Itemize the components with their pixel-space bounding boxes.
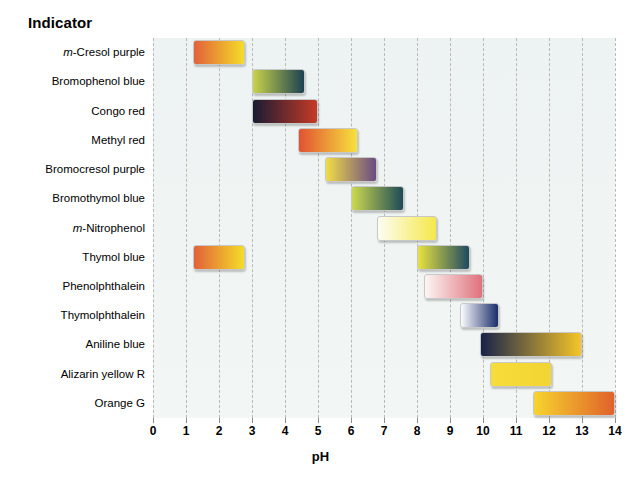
- indicator-label: Methyl red: [0, 134, 145, 147]
- indicator-label: Orange G: [0, 397, 145, 410]
- range-bar: [490, 362, 553, 387]
- range-bar: [424, 274, 483, 299]
- tick-label-3: 3: [239, 424, 265, 438]
- range-bar: [325, 157, 378, 182]
- range-bar: [377, 216, 436, 241]
- tick-mark-9: [450, 418, 451, 423]
- range-bar: [298, 128, 357, 153]
- tick-mark-10: [483, 418, 484, 423]
- range-bar: [252, 99, 318, 124]
- tick-label-10: 10: [470, 424, 496, 438]
- gridline-ph-6: [351, 38, 352, 418]
- gridline-ph-12: [549, 38, 550, 418]
- indicator-label: Phenolphthalein: [0, 280, 145, 293]
- indicator-label: Bromophenol blue: [0, 75, 145, 88]
- plot-area: [153, 38, 615, 418]
- tick-mark-6: [351, 418, 352, 423]
- range-bar: [193, 40, 246, 65]
- indicator-label: Congo red: [0, 105, 145, 118]
- tick-mark-11: [516, 418, 517, 423]
- range-bar: [351, 186, 404, 211]
- tick-label-11: 11: [503, 424, 529, 438]
- gridline-ph-3: [252, 38, 253, 418]
- range-bar: [533, 391, 616, 416]
- indicator-label: Alizarin yellow R: [0, 368, 145, 381]
- tick-label-2: 2: [206, 424, 232, 438]
- indicator-label: Bromothymol blue: [0, 192, 145, 205]
- tick-label-7: 7: [371, 424, 397, 438]
- range-bar: [460, 303, 500, 328]
- tick-mark-1: [186, 418, 187, 423]
- tick-label-5: 5: [305, 424, 331, 438]
- tick-mark-8: [417, 418, 418, 423]
- tick-label-0: 0: [140, 424, 166, 438]
- indicator-column-header: Indicator: [28, 14, 92, 31]
- gridline-ph-4: [285, 38, 286, 418]
- tick-label-1: 1: [173, 424, 199, 438]
- tick-mark-5: [318, 418, 319, 423]
- tick-label-12: 12: [536, 424, 562, 438]
- gridline-ph-10: [483, 38, 484, 418]
- indicator-label: m-Cresol purple: [0, 46, 145, 59]
- tick-mark-13: [582, 418, 583, 423]
- tick-mark-14: [615, 418, 616, 423]
- indicator-label: Aniline blue: [0, 338, 145, 351]
- indicator-label: Thymolphthalein: [0, 309, 145, 322]
- tick-label-8: 8: [404, 424, 430, 438]
- tick-mark-0: [153, 418, 154, 423]
- tick-label-9: 9: [437, 424, 463, 438]
- gridline-ph-1: [186, 38, 187, 418]
- tick-mark-2: [219, 418, 220, 423]
- indicator-label: m-Nitrophenol: [0, 222, 145, 235]
- tick-label-13: 13: [569, 424, 595, 438]
- indicator-label: Thymol blue: [0, 251, 145, 264]
- range-bar: [480, 332, 582, 357]
- gridline-ph-14: [615, 38, 616, 418]
- tick-label-14: 14: [602, 424, 628, 438]
- gridline-ph-13: [582, 38, 583, 418]
- x-axis-title: pH: [0, 449, 641, 464]
- gridline-ph-9: [450, 38, 451, 418]
- tick-label-4: 4: [272, 424, 298, 438]
- gridline-ph-0: [153, 38, 154, 418]
- tick-mark-4: [285, 418, 286, 423]
- range-bar: [193, 245, 246, 270]
- indicator-label: Bromocresol purple: [0, 163, 145, 176]
- range-bar: [417, 245, 470, 270]
- gridline-ph-5: [318, 38, 319, 418]
- gridline-ph-2: [219, 38, 220, 418]
- tick-label-6: 6: [338, 424, 364, 438]
- tick-mark-7: [384, 418, 385, 423]
- range-bar: [252, 69, 305, 94]
- tick-mark-12: [549, 418, 550, 423]
- ph-indicator-chart: Indicator m-Cresol purpleBromophenol blu…: [0, 0, 641, 488]
- tick-mark-3: [252, 418, 253, 423]
- x-axis: 01234567891011121314: [153, 418, 615, 442]
